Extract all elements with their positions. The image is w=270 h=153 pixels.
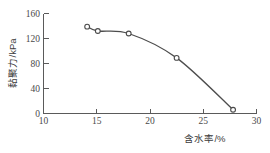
x-axis-title: 含水率/%: [184, 133, 226, 144]
x-tick-label-15: 15: [92, 116, 102, 126]
x-axis-ticks: [44, 109, 257, 114]
y-tick-label-160: 160: [26, 9, 41, 19]
data-point-marker: [85, 24, 90, 29]
y-tick-label-40: 40: [31, 84, 41, 94]
y-axis-title: 黏聚力/kPa: [7, 38, 18, 88]
data-series-line: [87, 27, 233, 110]
y-tick-label-120: 120: [26, 34, 41, 44]
x-tick-label-30: 30: [252, 116, 262, 126]
data-point-marker: [174, 55, 179, 60]
x-axis-tick-labels: 10 15 20 25 30: [39, 116, 262, 126]
y-axis-ticks: [44, 14, 49, 114]
data-point-marker: [231, 107, 236, 112]
data-point-marker: [126, 31, 131, 36]
x-tick-label-20: 20: [145, 116, 155, 126]
y-axis-tick-labels: 0 40 80 120 160: [26, 9, 41, 119]
axis-spines: [44, 14, 257, 114]
chart-container: 0 40 80 120 160 10 15 20 25 30 黏聚力/kPa 含…: [0, 0, 270, 153]
cohesion-vs-moisture-line-chart: 0 40 80 120 160 10 15 20 25 30 黏聚力/kPa 含…: [0, 0, 270, 153]
data-point-markers: [85, 24, 236, 112]
x-tick-label-25: 25: [199, 116, 209, 126]
y-tick-label-80: 80: [31, 59, 41, 69]
x-tick-label-10: 10: [39, 116, 49, 126]
data-point-marker: [95, 29, 100, 34]
